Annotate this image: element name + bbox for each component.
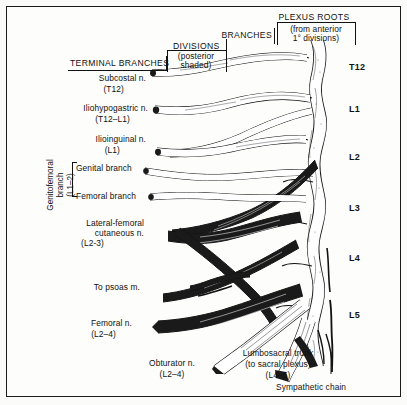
label-obturator-roots: (L2–4)	[130, 369, 214, 379]
vertebral-level-l4: L4	[349, 253, 360, 263]
cord-iliohypogastric	[153, 92, 310, 114]
label-subcostal-name: Subcostal n.	[62, 73, 146, 83]
vertebral-level-l5: L5	[349, 310, 360, 320]
terminal-branches-title: TERMINAL BRANCHES	[70, 58, 169, 68]
genitofemoral-bracket-top	[72, 162, 77, 163]
label-lateral-femoral-cutaneous-line1: Lateral-femoral	[58, 218, 144, 228]
divisions-bracket-right	[226, 39, 227, 72]
label-genital-branch: Genital branch	[76, 163, 132, 173]
label-lumbosacral-trunk-line1: Lumbosacral trunk	[226, 348, 330, 358]
plexus-roots-title: PLEXUS ROOTS	[256, 12, 372, 22]
plexus-roots-bracket-right	[355, 22, 356, 45]
genitofemoral-bracket-vertical	[72, 162, 73, 196]
branches-title: BRANCHES	[208, 30, 272, 40]
label-subcostal-roots: (T12)	[62, 84, 124, 94]
vertebral-level-t12: T12	[349, 62, 365, 72]
divisions-subtitle-line2: shaded)	[168, 60, 224, 70]
vertebral-level-l2: L2	[349, 152, 360, 162]
label-lumbosacral-trunk-line2: (to sacral plexus)	[226, 359, 330, 369]
label-lateral-femoral-cutaneous-line2: cutaneous n.	[58, 228, 144, 238]
lumbar-plexus-figure: PLEXUS ROOTS (from anterior 1° divisions…	[0, 0, 407, 405]
plexus-roots-subtitle-line2: 1° divisions)	[278, 33, 354, 43]
label-lumbosacral-trunk-line3: (L4–5)	[226, 370, 330, 380]
label-ilioinguinal-name: Ilioinguinal n.	[52, 134, 146, 144]
plexus-roots-bracket-top	[277, 22, 355, 23]
label-iliohypogastric-name: Iliohypogastric n.	[48, 103, 148, 113]
label-lateral-femoral-cutaneous-roots: (L2-3)	[58, 238, 104, 248]
plexus-roots-bracket-left	[277, 22, 278, 45]
terminal-branches-bracket-right	[166, 56, 167, 71]
label-sympathetic-chain: Sympathetic chain	[276, 382, 346, 392]
cord-genital-branch	[143, 168, 313, 181]
genitofemoral-label-line2: branch	[56, 154, 66, 216]
divisions-bracket-top	[167, 50, 226, 51]
label-to-psoas: To psoas m.	[62, 282, 140, 292]
branches-bracket	[274, 28, 275, 44]
label-femoral-branch: Femoral branch	[76, 191, 136, 201]
plexus-root-column	[307, 40, 327, 366]
label-femoral-nerve-roots: (L2–4)	[56, 329, 116, 339]
terminal-branches-underline	[68, 70, 166, 71]
vertebral-level-l1: L1	[349, 104, 360, 114]
label-iliohypogastric-roots: (T12–L1)	[48, 114, 130, 124]
genitofemoral-label-line1: Genitofemoral	[46, 154, 56, 216]
vertebral-level-l3: L3	[349, 203, 360, 213]
label-obturator-name: Obturator n.	[130, 358, 214, 368]
label-femoral-nerve-name: Femoral n.	[56, 318, 132, 328]
genitofemoral-bracket-bottom	[72, 196, 77, 197]
genitofemoral-label-line3: (L1–2)	[66, 154, 76, 216]
